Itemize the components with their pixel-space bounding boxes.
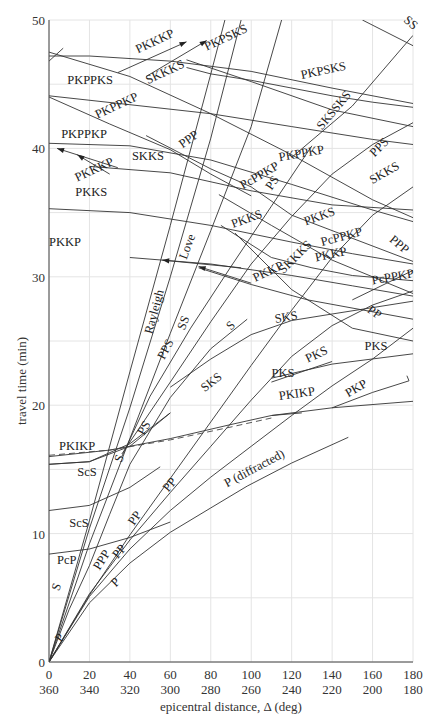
arrowhead-icon [162,258,169,263]
x-tick-label: 180 [403,667,423,682]
x-tick-label-secondary: 260 [241,682,261,697]
phase-label: PKPSKS [202,21,250,53]
phase-label: S [49,581,65,592]
phase-label: ScS [77,465,97,479]
x-tick-label-secondary: 340 [80,682,100,697]
phase-label: SS [401,13,421,33]
arrowhead-icon [179,42,186,47]
x-tick-label-secondary: 300 [161,682,181,697]
y-tick-label: 40 [32,141,45,156]
x-tick-label: 40 [123,667,136,682]
x-tick-label-secondary: 240 [282,682,302,697]
curve-s [49,319,247,662]
phase-label: PKKS [75,185,107,199]
phase-label: PKPPKP [93,89,141,121]
phase-label: PKPSKS [299,59,347,82]
phase-label: PKIKP [59,439,95,453]
arrowhead-icon [199,266,206,271]
phase-label: S [223,318,238,333]
phase-label: PS [135,418,154,437]
phase-label: SKKKS [143,57,186,87]
phase-label: PKKS [229,207,264,231]
x-tick-label: 60 [164,667,177,682]
phase-label: PKIKP [278,384,316,403]
phase-label: SKS [198,370,225,395]
phase-label: PcP [57,553,77,567]
phase-label: PPS [367,135,392,160]
x-tick-label: 120 [282,667,302,682]
phase-label: PKKP [251,258,286,284]
phase-label: PKPPKP [61,127,107,141]
y-tick-label: 30 [32,270,45,285]
phase-label: ScS [69,516,89,530]
y-tick-label: 10 [32,527,45,542]
y-tick-label: 0 [39,655,46,670]
phase-label: PKS [303,343,330,365]
phase-label: SKS [274,308,299,326]
phase-label: PP [125,508,144,527]
x-tick-label-secondary: 280 [201,682,221,697]
phase-label: PKS [364,339,387,353]
x-tick-label-secondary: 220 [322,682,342,697]
y-tick-label: 50 [32,13,45,28]
phase-label: PKS [271,366,294,380]
x-tick-label-secondary: 320 [120,682,140,697]
x-tick-label: 20 [83,667,96,682]
phase-label: S [111,453,127,464]
phase-label: PP [365,302,384,321]
phase-label: PcPPKP [371,266,415,287]
x-tick-label: 140 [322,667,342,682]
phase-label: PKP [343,376,370,400]
x-axis-label: epicentral distance, Δ (deg) [160,699,302,714]
x-tick-label: 0 [46,667,53,682]
phase-label: PKPPKS [67,73,113,87]
phase-label: SKKS [132,149,164,163]
phase-label: Rayleigh [142,287,167,335]
phase-label: PP [160,475,180,495]
phase-labels: PSPcPPPPPPPPPPPP (diffracted)ScSScSPKIKP… [49,13,421,645]
travel-time-chart: PSPcPPPPPPPPPPPP (diffracted)ScSScSPKIKP… [0,0,439,718]
phase-label: PKKP [49,235,81,249]
y-tick-label: 20 [32,398,45,413]
phase-label: PPP [176,127,201,150]
phase-label: Love [176,232,198,261]
x-tick-label: 160 [363,667,383,682]
x-tick-label-secondary: 200 [363,682,383,697]
axes: 0360203404032060300802801002601202401402… [14,13,423,714]
curve-pkkkp-2- [49,48,63,61]
phase-label: P (diffracted) [222,447,287,490]
x-tick-label-secondary: 180 [403,682,423,697]
x-tick-label-secondary: 360 [39,682,59,697]
arrowhead-icon [77,155,84,161]
x-tick-label: 100 [241,667,261,682]
x-tick-label: 80 [204,667,217,682]
curve-pcp [49,522,170,554]
y-axis-label: travel time (min) [14,337,29,425]
phase-label: PKKKP [73,154,116,184]
arrowhead-icon [57,148,64,153]
